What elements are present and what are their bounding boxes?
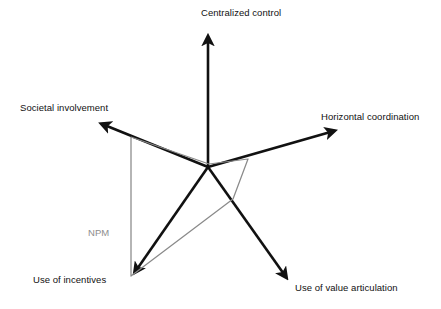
axis-arrow-value-articulation — [208, 167, 286, 277]
axis-label-horizontal-coordination: Horizontal coordination — [321, 112, 419, 122]
diagram-canvas — [0, 0, 441, 309]
axis-arrow-group — [102, 37, 334, 277]
series-polygon-npm — [131, 137, 248, 276]
series-label-npm: NPM — [88, 227, 109, 238]
radar-diagram: Centralized control Horizontal coordinat… — [0, 0, 441, 309]
axis-label-value-articulation: Use of value articulation — [295, 283, 398, 293]
axis-label-centralized-control: Centralized control — [201, 8, 281, 18]
axis-arrow-use-of-incentives — [135, 167, 208, 272]
axis-label-societal-involvement: Societal involvement — [20, 103, 108, 113]
axis-label-use-of-incentives: Use of incentives — [33, 275, 106, 285]
